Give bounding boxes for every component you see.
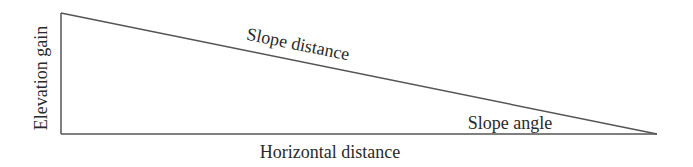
slope-angle-label: Slope angle: [468, 113, 552, 133]
elevation-gain-label: Elevation gain: [31, 26, 51, 130]
horizontal-distance-label: Horizontal distance: [260, 142, 400, 162]
slope-triangle-diagram: Elevation gain Slope distance Slope angl…: [0, 0, 693, 167]
slope-distance-hypotenuse: [61, 13, 657, 134]
slope-distance-label: Slope distance: [245, 24, 351, 64]
